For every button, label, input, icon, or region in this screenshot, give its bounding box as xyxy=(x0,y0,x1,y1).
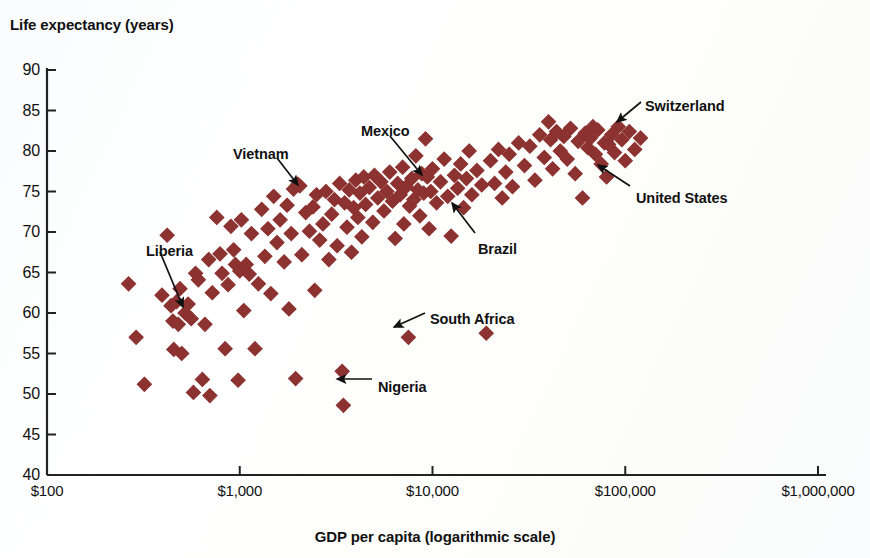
data-point xyxy=(155,288,169,302)
data-point xyxy=(462,144,476,158)
data-point xyxy=(388,231,402,245)
data-point xyxy=(568,167,582,181)
data-point xyxy=(322,253,336,267)
data-point xyxy=(377,204,391,218)
annotation-arrow-south-africa xyxy=(394,313,425,327)
data-point xyxy=(129,330,143,344)
data-point xyxy=(433,175,447,189)
data-point xyxy=(355,230,369,244)
data-point xyxy=(444,229,458,243)
data-point xyxy=(282,302,296,316)
data-point xyxy=(231,373,245,387)
data-point xyxy=(244,227,258,241)
data-point xyxy=(248,342,262,356)
data-point xyxy=(218,342,232,356)
data-point xyxy=(512,136,526,150)
data-point xyxy=(575,191,589,205)
data-point xyxy=(419,132,433,146)
data-point xyxy=(340,220,354,234)
data-point xyxy=(186,385,200,399)
plot-canvas xyxy=(0,0,870,558)
data-point xyxy=(289,372,303,386)
data-point xyxy=(437,152,451,166)
data-point xyxy=(528,173,542,187)
data-point xyxy=(280,198,294,212)
data-point xyxy=(308,283,322,297)
data-point xyxy=(366,215,380,229)
data-point xyxy=(618,154,632,168)
data-point xyxy=(537,150,551,164)
data-point xyxy=(488,176,502,190)
data-point xyxy=(396,160,410,174)
data-point xyxy=(479,326,493,340)
annotation-arrow-vietnam xyxy=(277,158,298,185)
data-point xyxy=(451,181,465,195)
data-point xyxy=(258,249,272,263)
data-point xyxy=(345,245,359,259)
data-point xyxy=(295,248,309,262)
data-point xyxy=(401,330,415,344)
data-point xyxy=(302,224,316,238)
axis-tick-marks xyxy=(47,70,818,475)
data-point xyxy=(546,162,560,176)
data-point xyxy=(422,222,436,236)
data-point xyxy=(198,317,212,331)
data-point xyxy=(122,277,136,291)
data-point xyxy=(270,236,284,250)
annotation-arrow-switzerland xyxy=(617,102,641,122)
axis-lines xyxy=(47,68,826,475)
data-point xyxy=(413,209,427,223)
data-point xyxy=(495,191,509,205)
data-point xyxy=(284,227,298,241)
data-point xyxy=(261,222,275,236)
data-point xyxy=(205,286,219,300)
data-point xyxy=(336,398,350,412)
data-point xyxy=(267,189,281,203)
data-point xyxy=(505,180,519,194)
data-point xyxy=(542,115,556,129)
data-point xyxy=(273,213,287,227)
data-point xyxy=(470,163,484,177)
data-point xyxy=(316,217,330,231)
data-points xyxy=(122,115,648,413)
data-point xyxy=(313,233,327,247)
data-point xyxy=(475,178,489,192)
data-point xyxy=(523,139,537,153)
data-point xyxy=(237,304,251,318)
data-point xyxy=(137,377,151,391)
data-point xyxy=(330,239,344,253)
data-point xyxy=(397,217,411,231)
data-point xyxy=(499,165,513,179)
data-point xyxy=(441,189,455,203)
data-point xyxy=(459,172,473,186)
data-point xyxy=(465,188,479,202)
data-point xyxy=(203,389,217,403)
data-point xyxy=(383,165,397,179)
data-point xyxy=(325,207,339,221)
data-point xyxy=(160,228,174,242)
data-point xyxy=(600,170,614,184)
scatter-chart-figure: Life expectancy (years) GDP per capita (… xyxy=(0,0,870,558)
data-point xyxy=(251,277,265,291)
data-point xyxy=(195,372,209,386)
data-point xyxy=(484,154,498,168)
data-point xyxy=(264,287,278,301)
data-point xyxy=(517,159,531,173)
data-point xyxy=(335,364,349,378)
data-point xyxy=(277,255,291,269)
data-point xyxy=(210,210,224,224)
data-point xyxy=(255,202,269,216)
data-point xyxy=(227,243,241,257)
